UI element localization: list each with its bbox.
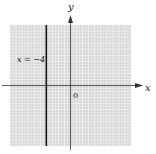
x-axis-arrow-icon xyxy=(135,83,143,88)
y-axis-arrow-icon xyxy=(68,15,73,23)
coordinate-plane: y x 0 x = −4 xyxy=(0,0,156,154)
x-axis-label: x xyxy=(145,82,151,93)
line-equation-label: x = −4 xyxy=(17,55,45,64)
y-axis-label: y xyxy=(67,1,74,12)
origin-label: 0 xyxy=(73,91,78,100)
